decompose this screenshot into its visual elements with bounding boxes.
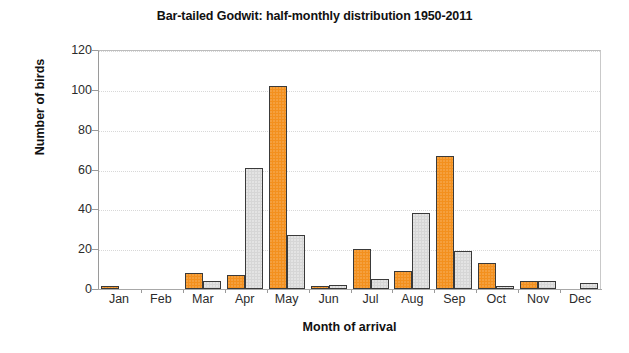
x-tick-label-jun: Jun bbox=[308, 292, 350, 306]
bar-may-first-half bbox=[269, 86, 287, 289]
y-tick-label: 60 bbox=[50, 163, 92, 177]
x-tick-label-jul: Jul bbox=[350, 292, 392, 306]
bar-apr-first-half bbox=[227, 275, 245, 289]
bar-jul-second-half bbox=[371, 279, 389, 289]
x-tick-label-jan: Jan bbox=[98, 292, 140, 306]
month-bar-group bbox=[309, 51, 351, 289]
y-tick-label: 20 bbox=[50, 242, 92, 256]
bar-jul-first-half bbox=[353, 249, 371, 289]
bar-sep-second-half bbox=[454, 251, 472, 289]
x-tick-label-apr: Apr bbox=[224, 292, 266, 306]
bar-sep-first-half bbox=[436, 156, 454, 289]
bar-may-second-half bbox=[287, 235, 305, 289]
x-axis-tick-labels: JanFebMarAprMayJunJulAugSepOctNovDec bbox=[98, 292, 601, 314]
x-tick-label-dec: Dec bbox=[559, 292, 601, 306]
x-axis-title: Month of arrival bbox=[98, 320, 601, 334]
x-tick-label-nov: Nov bbox=[517, 292, 559, 306]
bar-aug-first-half bbox=[394, 271, 412, 289]
x-axis-line bbox=[98, 289, 602, 290]
bar-oct-first-half bbox=[478, 263, 496, 289]
x-tick-label-sep: Sep bbox=[433, 292, 475, 306]
month-bar-group bbox=[351, 51, 393, 289]
month-bar-group bbox=[434, 51, 476, 289]
bar-nov-first-half bbox=[520, 281, 538, 289]
y-axis-title: Number of birds bbox=[33, 7, 47, 207]
bar-chart-figure: Bar-tailed Godwit: half-monthly distribu… bbox=[0, 0, 629, 353]
plot-inner bbox=[99, 51, 600, 289]
x-tick-label-mar: Mar bbox=[182, 292, 224, 306]
x-tick-label-may: May bbox=[266, 292, 308, 306]
month-bar-group bbox=[392, 51, 434, 289]
month-bar-group bbox=[476, 51, 518, 289]
bar-apr-second-half bbox=[245, 168, 263, 289]
month-bar-group bbox=[183, 51, 225, 289]
x-tick-label-feb: Feb bbox=[140, 292, 182, 306]
month-bar-group bbox=[141, 51, 183, 289]
month-bar-group bbox=[99, 51, 141, 289]
bar-mar-first-half bbox=[185, 273, 203, 289]
chart-title: Bar-tailed Godwit: half-monthly distribu… bbox=[0, 9, 629, 23]
y-tick-label: 40 bbox=[50, 202, 92, 216]
y-tick-label: 80 bbox=[50, 123, 92, 137]
bar-aug-second-half bbox=[412, 213, 430, 289]
month-bar-group bbox=[267, 51, 309, 289]
month-bar-group bbox=[560, 51, 602, 289]
y-tick-label: 0 bbox=[50, 282, 92, 296]
y-axis-tick-labels: 020406080100120 bbox=[46, 50, 92, 289]
bar-nov-second-half bbox=[538, 281, 556, 289]
plot-area bbox=[98, 50, 601, 289]
month-bar-group bbox=[518, 51, 560, 289]
month-bar-group bbox=[225, 51, 267, 289]
x-tick-label-oct: Oct bbox=[475, 292, 517, 306]
y-tick-label: 100 bbox=[50, 83, 92, 97]
x-tick-label-aug: Aug bbox=[391, 292, 433, 306]
bar-mar-second-half bbox=[203, 281, 221, 289]
y-tick-label: 120 bbox=[50, 43, 92, 57]
